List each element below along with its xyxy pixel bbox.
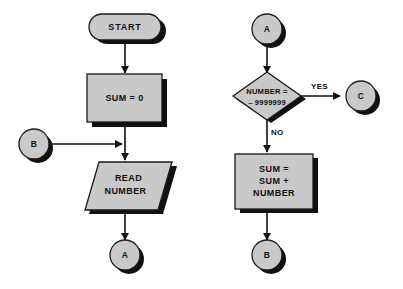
- read-io-label-line2: NUMBER: [105, 186, 147, 196]
- decision-label-line2: – 9999999: [248, 98, 286, 107]
- accumulate-label-line2: SUM +: [259, 176, 289, 186]
- read-io-shape: READ NUMBER: [85, 162, 177, 214]
- connector-a-exit: A: [110, 240, 144, 274]
- read-io-label-line1: READ: [115, 173, 142, 183]
- connector-a-entry-label: A: [264, 24, 270, 34]
- connector-c-label: C: [358, 91, 364, 101]
- init-process-label: SUM = 0: [105, 93, 143, 103]
- accumulate-process-box: SUM = SUM + NUMBER: [235, 154, 318, 213]
- accumulate-label-line1: SUM =: [259, 164, 289, 174]
- connector-a-exit-label: A: [122, 250, 128, 260]
- decision-label-line1: NUMBER =: [246, 87, 288, 96]
- flowchart-canvas: START SUM = 0 B READ NUMBER: [0, 0, 403, 289]
- yes-branch-label: YES: [311, 82, 328, 91]
- start-terminator: START: [89, 14, 166, 44]
- connector-b-entry-label: B: [31, 139, 37, 149]
- connector-b-exit: B: [252, 240, 286, 274]
- flowchart-svg: START SUM = 0 B READ NUMBER: [0, 0, 403, 289]
- accumulate-label-line3: NUMBER: [253, 188, 295, 198]
- connector-c: C: [346, 81, 380, 115]
- connector-b-entry: B: [19, 129, 53, 163]
- start-terminator-label: START: [108, 22, 141, 32]
- init-process-box: SUM = 0: [87, 74, 167, 127]
- no-branch-label: NO: [271, 128, 284, 137]
- connector-a-entry: A: [252, 14, 286, 48]
- connector-b-exit-label: B: [264, 250, 270, 260]
- decision-diamond: NUMBER = – 9999999: [233, 72, 306, 123]
